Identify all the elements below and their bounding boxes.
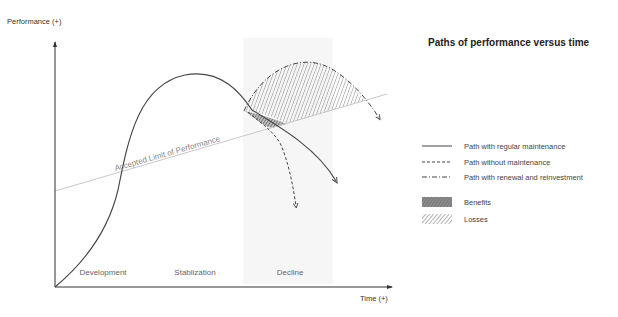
legend-label: Path with regular maintenance	[464, 142, 565, 151]
phase-label-stabilization: Stablization	[174, 268, 215, 277]
legend-label: Path with renewal and reinvestment	[464, 173, 583, 182]
legend-label: Benefits	[464, 198, 491, 207]
phase-label-development: Development	[79, 268, 126, 277]
phase-label-decline: Decline	[277, 268, 304, 277]
legend-item-regular: Path with regular maintenance	[422, 139, 565, 153]
solid-line-icon	[422, 140, 454, 152]
legend-item-losses: Losses	[422, 212, 488, 226]
legend-item-benefits: Benefits	[422, 195, 491, 209]
dash-dot-line-icon	[422, 171, 454, 183]
benefits-swatch-icon	[422, 196, 454, 208]
dashed-line-icon	[422, 156, 454, 168]
legend-item-without: Path without maintenance	[422, 155, 550, 169]
legend-title: Paths of performance versus time	[428, 37, 589, 48]
y-axis-label: Performance (+)	[7, 17, 61, 26]
losses-swatch-icon	[422, 213, 454, 225]
legend-label: Path without maintenance	[464, 158, 550, 167]
legend-label: Losses	[464, 215, 488, 224]
x-axis-label: Time (+)	[360, 294, 388, 303]
legend-item-renewal: Path with renewal and reinvestment	[422, 170, 583, 184]
